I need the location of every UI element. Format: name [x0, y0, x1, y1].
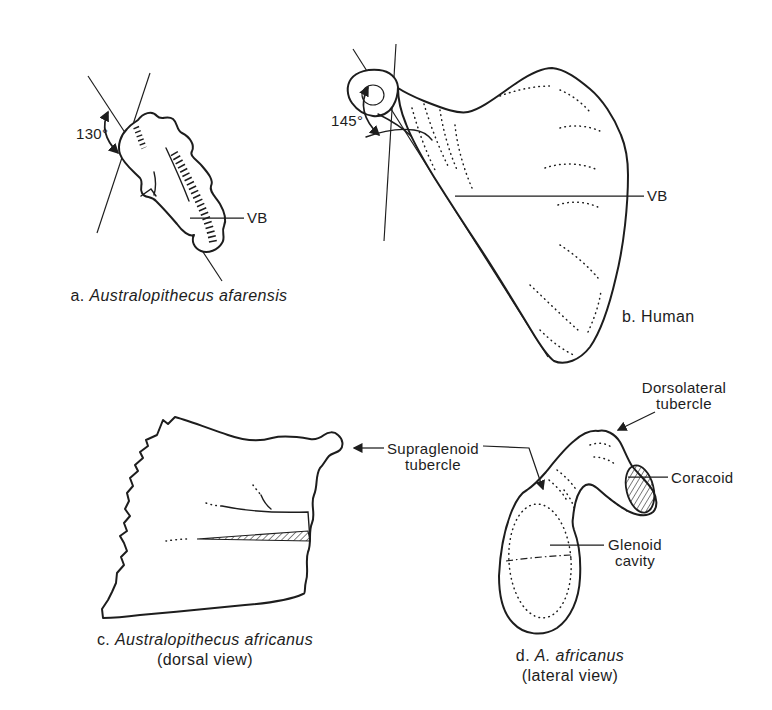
caption-panel-a: a. Australopithecus afarensis — [49, 286, 309, 306]
dorsolateral-tubercle-label: Dorsolateral tubercle — [636, 380, 732, 412]
coracoid-label: Coracoid — [671, 470, 733, 486]
caption-panel-c: c. Australopithecus africanus (dorsal vi… — [75, 630, 335, 670]
angle-label-b: 145° — [331, 113, 363, 129]
panel-d-drawing — [499, 431, 659, 634]
vb-label-a: VB — [247, 210, 268, 226]
caption-d-species: A. africanus — [535, 647, 624, 664]
caption-c-line1: c. Australopithecus africanus — [75, 630, 335, 650]
supraglenoid-right-arrow — [483, 446, 543, 489]
caption-c-prefix: c. — [97, 631, 110, 648]
angle-label-a: 130° — [76, 126, 108, 142]
caption-panel-d: d. A. africanus (lateral view) — [495, 646, 645, 686]
acromion-knob-outline — [348, 70, 398, 116]
dorsolateral-line1: Dorsolateral — [636, 380, 732, 396]
dorsolateral-line2: tubercle — [636, 396, 732, 412]
africanus-lateral-outline — [499, 431, 656, 634]
afarensis-bone-outline — [119, 113, 225, 252]
caption-a-prefix: a. — [70, 287, 84, 304]
caption-c-view: (dorsal view) — [75, 650, 335, 670]
caption-b-prefix: b. — [622, 308, 636, 325]
caption-d-view: (lateral view) — [495, 666, 645, 686]
caption-c-species: Australopithecus africanus — [115, 631, 313, 648]
africanus-dorsal-outline — [102, 417, 342, 618]
caption-b-name: Human — [641, 308, 695, 325]
supraglenoid-line2: tubercle — [382, 457, 484, 473]
glenoid-line1: Glenoid — [604, 537, 666, 553]
supraglenoid-tubercle-label: Supraglenoid tubercle — [382, 441, 484, 473]
supraglenoid-line1: Supraglenoid — [382, 441, 484, 457]
anatomical-line-art — [0, 0, 772, 710]
caption-d-prefix: d. — [516, 647, 530, 664]
panel-b-drawing — [348, 44, 644, 363]
caption-d-line1: d. A. africanus — [495, 646, 645, 666]
dorsolateral-arrow — [618, 412, 655, 430]
vb-label-b: VB — [647, 188, 668, 204]
caption-panel-b: b. Human — [622, 307, 695, 327]
panel-a-drawing — [88, 73, 244, 281]
panel-c-drawing — [102, 417, 342, 618]
caption-a-species: Australopithecus afarensis — [89, 287, 287, 304]
glenoid-cavity-label: Glenoid cavity — [604, 537, 666, 569]
figure-canvas: 130° VB a. Australopithecus afarensis 14… — [0, 0, 772, 710]
glenoid-line2: cavity — [604, 553, 666, 569]
